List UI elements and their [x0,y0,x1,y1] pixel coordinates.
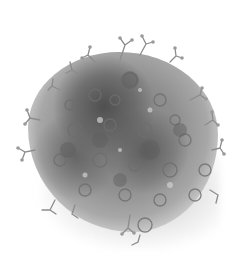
molecule-structure [0,0,237,280]
image-canvas [0,0,237,280]
